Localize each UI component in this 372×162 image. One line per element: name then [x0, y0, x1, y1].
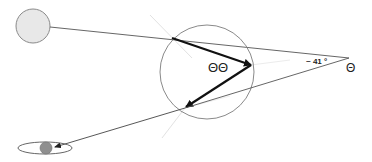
faint-normal-line-exit	[162, 108, 185, 138]
target-dot	[40, 142, 52, 154]
incoming-ray-line	[50, 27, 349, 58]
exit-ray-arrow	[55, 108, 185, 147]
angle-label: ~ 41 °	[306, 57, 327, 66]
drop-label: ΘΘ	[208, 60, 228, 75]
observer-label: Θ	[346, 61, 355, 75]
sun-circle	[16, 9, 50, 43]
rainbow-diagram: ΘΘ ~ 41 ° Θ	[0, 0, 372, 162]
faint-normal-line-mid	[251, 60, 290, 65]
faint-normal-line-entry	[150, 15, 192, 58]
